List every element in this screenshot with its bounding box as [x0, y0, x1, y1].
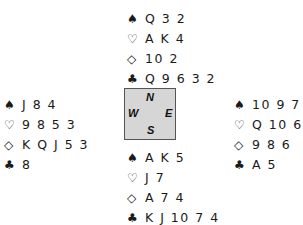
diamond-icon: ◇ [127, 49, 145, 69]
heart-icon: ♡ [234, 115, 252, 135]
south-hearts: ♡J 7 [127, 168, 220, 188]
north-diamonds: ◇10 2 [127, 49, 216, 69]
heart-icon: ♡ [4, 115, 22, 135]
east-spades: ♠10 9 7 6 [234, 95, 303, 115]
north-hand: ♠Q 3 2 ♡A K 4 ◇10 2 ♣Q 9 6 3 2 [127, 9, 216, 89]
west-clubs: ♣8 [4, 155, 89, 175]
east-diamonds: ◇9 8 6 [234, 135, 303, 155]
spade-icon: ♠ [4, 95, 22, 115]
spade-icon: ♠ [234, 95, 252, 115]
west-hand: ♠J 8 4 ♡9 8 5 3 ◇K Q J 5 3 ♣8 [4, 95, 89, 175]
east-hearts: ♡Q 10 6 2 [234, 115, 303, 135]
east-hand: ♠10 9 7 6 ♡Q 10 6 2 ◇9 8 6 ♣A 5 [234, 95, 303, 175]
compass-south: S [147, 124, 154, 136]
diamond-icon: ◇ [4, 135, 22, 155]
west-diamonds: ◇K Q J 5 3 [4, 135, 89, 155]
compass-box: N W E S [124, 88, 176, 140]
north-hearts: ♡A K 4 [127, 29, 216, 49]
south-spades: ♠A K 5 [127, 148, 220, 168]
club-icon: ♣ [234, 155, 252, 175]
heart-icon: ♡ [127, 168, 145, 188]
south-diamonds: ◇A 7 4 [127, 188, 220, 208]
compass-east: E [165, 107, 172, 119]
compass-west: W [128, 107, 138, 119]
club-icon: ♣ [4, 155, 22, 175]
club-icon: ♣ [127, 69, 145, 89]
diamond-icon: ◇ [127, 188, 145, 208]
spade-icon: ♠ [127, 9, 145, 29]
west-hearts: ♡9 8 5 3 [4, 115, 89, 135]
south-hand: ♠A K 5 ♡J 7 ◇A 7 4 ♣K J 10 7 4 [127, 148, 220, 225]
compass-north: N [146, 91, 154, 103]
north-clubs: ♣Q 9 6 3 2 [127, 69, 216, 89]
east-clubs: ♣A 5 [234, 155, 303, 175]
north-spades: ♠Q 3 2 [127, 9, 216, 29]
heart-icon: ♡ [127, 29, 145, 49]
club-icon: ♣ [127, 208, 145, 225]
diamond-icon: ◇ [234, 135, 252, 155]
west-spades: ♠J 8 4 [4, 95, 89, 115]
south-clubs: ♣K J 10 7 4 [127, 208, 220, 225]
spade-icon: ♠ [127, 148, 145, 168]
